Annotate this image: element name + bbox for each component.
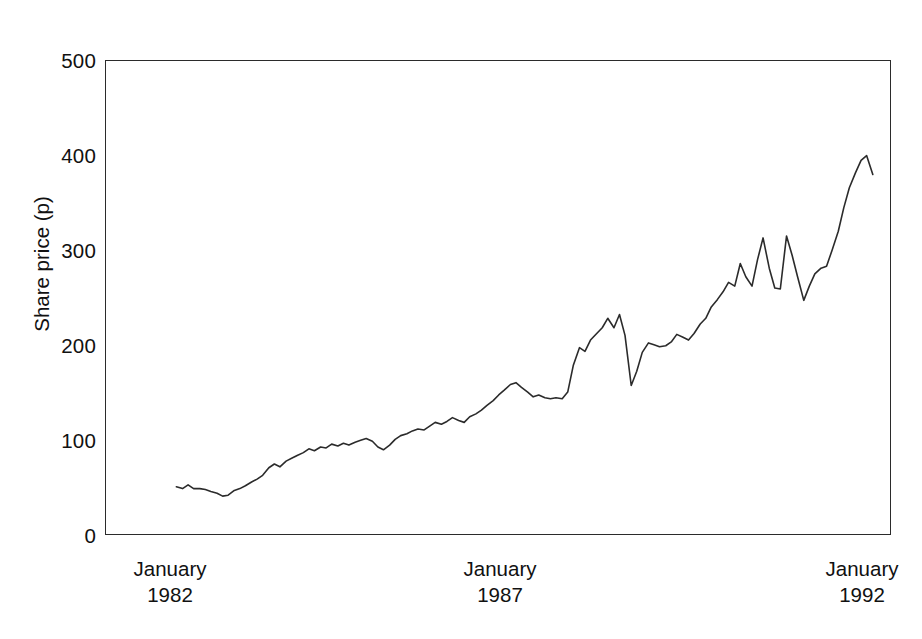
y-tick-label-0: 0 (36, 526, 96, 546)
y-axis-title: Share price (p) (30, 144, 54, 384)
x-tick-1992-month: January (826, 557, 899, 580)
x-tick-label-1987: January 1987 (390, 556, 610, 608)
x-tick-1982-month: January (134, 557, 207, 580)
y-tick-label-100: 100 (36, 431, 96, 451)
y-tick-label-500: 500 (36, 51, 96, 71)
x-tick-label-1992: January 1992 (752, 556, 922, 608)
chart-figure: 0 100 200 300 400 500 Share price (p) Ja… (0, 0, 922, 639)
x-tick-1987-year: 1987 (390, 582, 610, 608)
x-tick-1992-year: 1992 (752, 582, 922, 608)
x-tick-1987-month: January (464, 557, 537, 580)
x-tick-label-1982: January 1982 (60, 556, 280, 608)
share-price-line-series (106, 61, 890, 534)
plot-area (105, 60, 891, 535)
x-tick-1982-year: 1982 (60, 582, 280, 608)
